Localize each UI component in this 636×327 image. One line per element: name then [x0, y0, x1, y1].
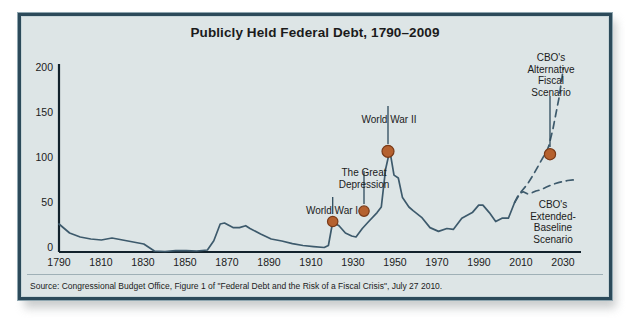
annotation-cbo-extended-baseline-scenario: CBO's Extended- Baseline Scenario: [519, 199, 587, 245]
annotation-the-great-depression: The Great Depression: [324, 167, 404, 190]
annotation-world-war-ii: World War II: [349, 114, 429, 126]
annotation-cbo-extended-line-1: CBO's: [519, 199, 587, 211]
annotation-cbo-extended-line-4: Scenario: [519, 234, 587, 246]
annotation-cbo-alternative-line-4: Scenario: [519, 87, 583, 99]
axis-lines: [59, 64, 581, 252]
annotation-cbo-alternative-fiscal-scenario: CBO's Alternative Fiscal Scenario: [519, 52, 583, 98]
annotation-world-war-i: World War I: [289, 205, 375, 217]
annotation-great-depression-line-2: Depression: [324, 179, 404, 191]
marker-cbo-alternative: [544, 149, 555, 160]
annotation-great-depression-line-1: The Great: [324, 167, 404, 179]
marker-world-war-ii: [382, 145, 394, 157]
marker-world-war-i: [328, 216, 338, 226]
annotation-cbo-alternative-line-3: Fiscal: [519, 75, 583, 87]
annotation-cbo-extended-line-2: Extended-: [519, 211, 587, 223]
source-note: Source: Congressional Budget Office, Fig…: [30, 281, 442, 291]
annotation-cbo-extended-line-3: Baseline: [519, 222, 587, 234]
annotation-cbo-alternative-line-1: CBO's: [519, 52, 583, 64]
series-historical-debt: [59, 150, 515, 251]
annotation-world-war-i-line-1: World War I: [306, 205, 358, 216]
chart-figure-frame: Publicly Held Federal Debt, 1790–2009 20…: [18, 13, 612, 300]
source-divider: [27, 274, 603, 275]
annotation-world-war-ii-line-1: World War II: [361, 114, 416, 125]
annotation-cbo-alternative-line-2: Alternative: [519, 64, 583, 76]
figure-root: Publicly Held Federal Debt, 1790–2009 20…: [0, 0, 636, 327]
